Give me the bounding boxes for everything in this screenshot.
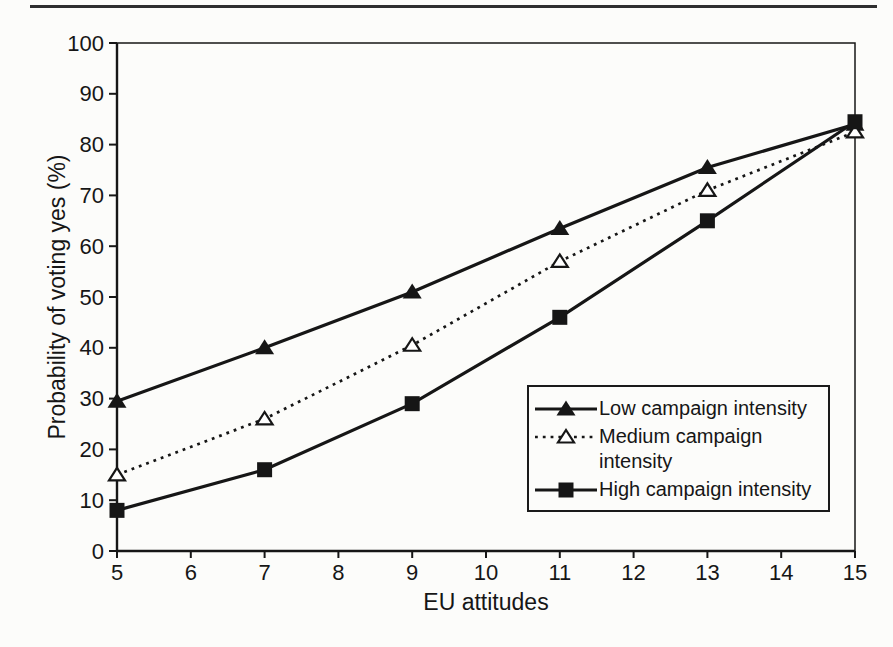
legend-label-medium: Medium campaign intensity: [599, 424, 822, 473]
legend-item-medium: Medium campaign intensity: [535, 424, 822, 473]
legend-item-high: High campaign intensity: [535, 477, 822, 501]
x-tick-label: 9: [406, 560, 418, 585]
y-axis-title: Probability of voting yes (%): [44, 154, 71, 439]
y-tick-label: 70: [80, 183, 104, 208]
chart: 010203040506070809010056789101112131415 …: [0, 0, 893, 647]
y-tick-label: 40: [80, 335, 104, 360]
marker-square-filled-icon: [559, 482, 574, 497]
marker-triangle-filled-icon: [403, 283, 422, 298]
x-axis-title: EU attitudes: [423, 589, 548, 616]
x-tick-label: 8: [332, 560, 344, 585]
y-tick-label: 50: [80, 285, 104, 310]
y-tick-label: 100: [67, 31, 104, 56]
x-tick-label: 5: [111, 560, 123, 585]
x-tick-label: 6: [185, 560, 197, 585]
x-ticks: 56789101112131415: [111, 551, 867, 585]
y-tick-label: 60: [80, 234, 104, 259]
marker-triangle-open-icon: [552, 254, 568, 267]
legend-sample-medium-dotted-triangle-icon: [535, 427, 597, 447]
chart-canvas: 010203040506070809010056789101112131415: [0, 0, 893, 647]
x-tick-label: 15: [843, 560, 867, 585]
marker-triangle-filled-icon: [550, 220, 569, 235]
marker-square-filled-icon: [110, 503, 125, 518]
marker-triangle-open-icon: [109, 468, 125, 481]
x-tick-label: 11: [548, 560, 571, 585]
marker-triangle-open-icon: [404, 338, 420, 351]
y-tick-label: 20: [80, 437, 104, 462]
legend-label-high: High campaign intensity: [599, 477, 822, 501]
legend-sample-high-line-square-icon: [535, 480, 597, 500]
y-tick-label: 30: [80, 386, 104, 411]
marker-square-filled-icon: [552, 310, 567, 325]
marker-triangle-open-icon: [699, 183, 715, 196]
x-tick-label: 12: [621, 560, 645, 585]
y-tick-label: 0: [92, 539, 104, 564]
legend-sample-low-line-triangle-icon: [535, 399, 597, 419]
legend-label-low: Low campaign intensity: [599, 396, 822, 420]
marker-triangle-open-icon: [257, 412, 273, 425]
x-tick-label: 10: [474, 560, 498, 585]
legend: Low campaign intensity Medium campaign i…: [527, 385, 830, 512]
y-tick-label: 90: [80, 81, 104, 106]
page: 010203040506070809010056789101112131415 …: [0, 0, 893, 647]
marker-square-filled-icon: [257, 462, 272, 477]
y-tick-label: 80: [80, 132, 104, 157]
legend-item-low: Low campaign intensity: [535, 396, 822, 420]
marker-square-filled-icon: [700, 213, 715, 228]
x-tick-label: 13: [695, 560, 719, 585]
marker-square-filled-icon: [848, 114, 863, 129]
y-ticks: 0102030405060708090100: [67, 31, 117, 564]
marker-square-filled-icon: [405, 396, 420, 411]
x-tick-label: 14: [769, 560, 793, 585]
y-tick-label: 10: [80, 488, 104, 513]
x-tick-label: 7: [258, 560, 270, 585]
